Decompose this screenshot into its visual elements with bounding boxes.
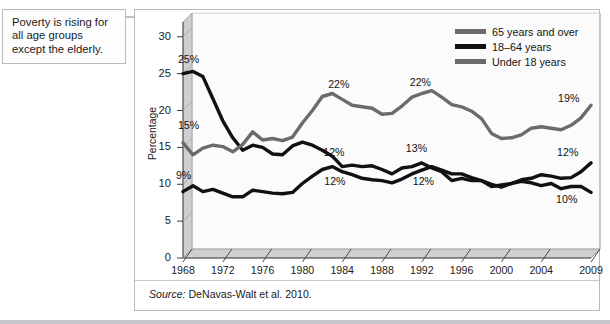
bottom-rule [0,320,610,324]
legend-item: 65 years and over [455,24,578,39]
chart-frame: Percentage 051015202530 1968197219761980… [134,9,600,311]
figure-title-cropped [134,0,600,7]
x-axis-tick-label: 1988 [362,265,402,276]
x-axis-tick-label: 2004 [521,265,561,276]
x-axis-tick-label: 1976 [243,265,283,276]
y-axis-tick-label: 5 [149,215,171,225]
x-axis-tick-label: 2009 [571,265,610,276]
legend-item: 18–64 years [455,39,578,54]
x-axis-tick-label: 1996 [442,265,482,276]
x-axis-tick-label: 1980 [282,265,322,276]
data-point-label: 12% [413,176,434,187]
legend-item: Under 18 years [455,54,578,69]
x-axis-tick-label: 1984 [322,265,362,276]
source-bar: Source: DeNavas-Walt et al. 2010. [135,280,599,310]
callout-box: Poverty is rising for all age groups exc… [2,9,126,64]
data-point-label: 22% [410,77,431,88]
data-point-label: 12% [557,147,578,158]
source-citation: DeNavas-Walt et al. 2010. [186,288,312,300]
x-axis-tick-label: 1968 [163,265,203,276]
data-point-label: 12% [323,147,344,158]
data-point-label: 13% [406,143,427,154]
data-point-label: 10% [556,194,577,205]
y-axis-tick-label: 20 [149,105,171,115]
legend-swatch-icon [455,29,486,34]
source-label: Source: [149,288,186,300]
legend-swatch-icon [455,44,486,49]
legend-label: 18–64 years [492,41,551,53]
plot-area: Percentage 051015202530 1968197219761980… [135,10,601,282]
data-point-label: 22% [328,79,349,90]
data-point-label: 25% [178,54,199,65]
y-axis-tick-label: 15 [149,141,171,151]
legend-label: Under 18 years [492,56,566,68]
y-axis-tick-label: 25 [149,68,171,78]
callout-text: Poverty is rising for all age groups exc… [12,16,108,55]
data-point-label: 9% [176,170,191,181]
y-axis-tick-label: 10 [149,178,171,188]
x-axis-tick-label: 2000 [481,265,521,276]
y-axis-tick-label: 30 [149,31,171,41]
data-point-label: 12% [324,176,345,187]
data-point-label: 19% [558,93,579,104]
data-point-label: 15% [178,120,199,131]
x-axis-tick-label: 1992 [402,265,442,276]
legend: 65 years and over 18–64 years Under 18 y… [455,24,578,69]
figure-root: Poverty is rising for all age groups exc… [0,0,610,324]
x-axis-tick-label: 1972 [203,265,243,276]
legend-swatch-icon [455,59,486,64]
legend-label: 65 years and over [492,26,578,38]
y-axis-tick-label: 0 [149,252,171,262]
source-note: Source: DeNavas-Walt et al. 2010. [149,288,312,300]
